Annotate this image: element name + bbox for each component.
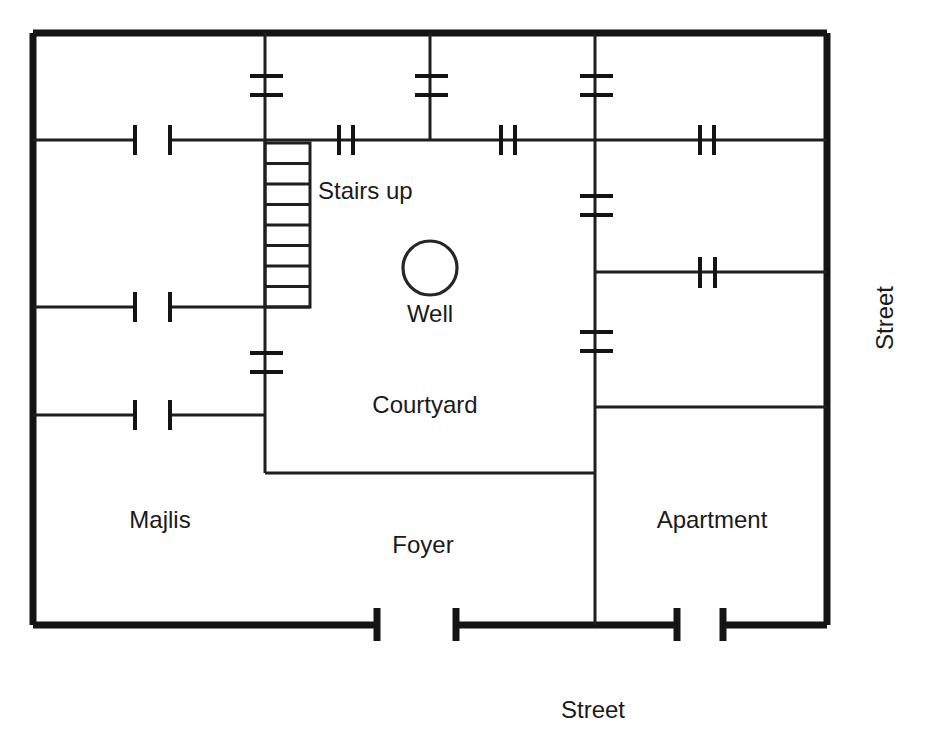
label-street-bottom: Street: [561, 696, 625, 723]
plan-labels: Stairs up Well Courtyard Majlis Foyer Ap…: [129, 177, 898, 723]
label-courtyard: Courtyard: [372, 391, 477, 418]
label-majlis: Majlis: [129, 506, 190, 533]
label-well: Well: [407, 300, 453, 327]
label-foyer: Foyer: [392, 531, 453, 558]
label-street-right: Street: [871, 286, 898, 350]
stairs-icon: [265, 143, 310, 307]
floor-plan-drawing: Stairs up Well Courtyard Majlis Foyer Ap…: [0, 0, 936, 746]
well-icon: [403, 241, 457, 295]
label-apartment: Apartment: [657, 506, 768, 533]
label-stairs-up: Stairs up: [318, 177, 413, 204]
floor-plan-root: Stairs up Well Courtyard Majlis Foyer Ap…: [0, 0, 936, 746]
interior-door-jambs: [135, 125, 715, 430]
